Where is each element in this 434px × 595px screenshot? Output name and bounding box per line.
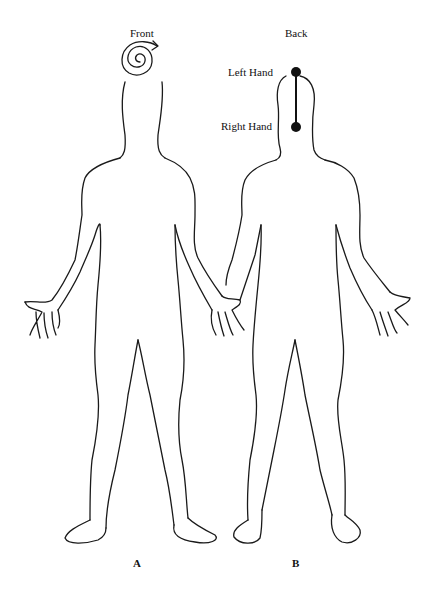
- hand-position-line: [291, 67, 301, 132]
- clockwise-spiral-icon: [122, 41, 158, 75]
- right-hand-point-icon: [291, 122, 301, 132]
- front-body-outline: [25, 82, 244, 543]
- left-hand-point-icon: [291, 67, 301, 77]
- back-body-outline: [226, 76, 410, 543]
- body-outlines: [0, 0, 434, 595]
